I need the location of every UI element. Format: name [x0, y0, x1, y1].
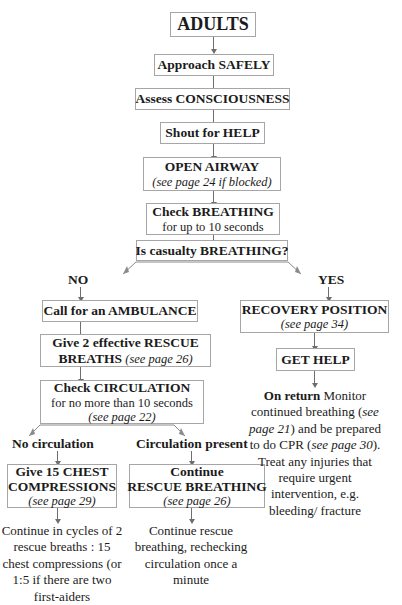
node-chest-compressions-line1: Give 15 CHEST — [15, 464, 108, 479]
terminal-text-on-return-l3: page 21) and be — [249, 421, 332, 436]
node-open-airway-note: (see page 24 if blocked) — [152, 175, 271, 189]
terminal-text-rescue-l3: circulation once a — [145, 556, 237, 571]
node-recovery-position: RECOVERY POSITION (see page 34) — [240, 300, 389, 333]
node-continue-rescue-breathing-line1: Continue — [170, 464, 223, 479]
node-adults-label: ADULTS — [177, 14, 248, 34]
node-continue-rescue-breathing-note: (see page 26) — [163, 494, 230, 508]
node-chest-compressions-line2: COMPRESSIONS — [8, 479, 116, 494]
terminal-text-on-return-l7: require urgent — [278, 470, 351, 485]
node-decision-label: Is casualty BREATHING? — [136, 243, 289, 258]
terminal-text-on-return-l2: breathing (see — [306, 404, 379, 419]
node-give-rescue-breaths-line2-bold: BREATHS — [58, 351, 125, 366]
terminal-text-cycles-l4: 1:5 if there are two — [13, 572, 112, 587]
terminal-text-on-return-l8: intervention, — [271, 486, 337, 501]
node-adults: ADULTS — [170, 12, 256, 37]
node-call-ambulance: Call for an AMBULANCE — [42, 300, 198, 322]
node-decision-is-casualty-breathing: Is casualty BREATHING? — [136, 240, 288, 261]
node-get-help-label: GET HELP — [281, 352, 349, 367]
node-continue-rescue-breathing: Continue RESCUE BREATHING (see page 26) — [129, 464, 265, 508]
terminal-text-on-return: On return Monitor continued breathing (s… — [246, 388, 384, 519]
node-recovery-position-note: (see page 34) — [281, 317, 348, 331]
edge-label-no: NO — [68, 272, 88, 288]
node-check-breathing: Check BREATHING for up to 10 seconds — [146, 203, 280, 235]
node-assess-consciousness: Assess CONSCIOUSNESS — [135, 88, 290, 110]
node-call-ambulance-label: Call for an AMBULANCE — [43, 303, 196, 318]
node-check-circulation-line2: for no more than 10 seconds — [51, 396, 193, 410]
node-give-rescue-breaths-note: (see page 26) — [125, 352, 192, 366]
terminal-text-on-return-l3b: ) and be — [290, 421, 332, 436]
terminal-text-on-return-heading: On return — [264, 388, 320, 403]
node-give-rescue-breaths-line2: BREATHS (see page 26) — [58, 351, 192, 366]
node-open-airway: OPEN AIRWAY (see page 24 if blocked) — [143, 157, 281, 191]
node-assess-consciousness-label: Assess CONSCIOUSNESS — [135, 91, 289, 106]
node-check-circulation: Check CIRCULATION for no more than 10 se… — [40, 380, 204, 424]
terminal-text-cycles-l5: first-aiders — [34, 589, 90, 604]
node-check-breathing-label: Check BREATHING — [152, 204, 274, 219]
terminal-text-rescue-l4: minute — [173, 572, 209, 587]
node-get-help: GET HELP — [276, 348, 355, 371]
edge-label-no-circulation: No circulation — [12, 436, 94, 452]
terminal-text-on-return-l6: any injuries that — [288, 454, 372, 469]
terminal-text-rescue-l1: Continue rescue — [149, 523, 233, 538]
node-approach-safely-label: Approach SAFELY — [158, 57, 271, 72]
node-give-rescue-breaths: Give 2 effective RESCUE BREATHS (see pag… — [40, 334, 211, 367]
node-check-circulation-note: (see page 22) — [88, 410, 155, 424]
node-check-breathing-note: for up to 10 seconds — [162, 220, 263, 234]
edge-label-yes: YES — [318, 272, 344, 288]
terminal-text-cycles: Continue in cycles of 2 rescue breaths :… — [0, 523, 124, 605]
node-open-airway-label: OPEN AIRWAY — [165, 159, 260, 174]
node-chest-compressions-note: (see page 29) — [28, 494, 95, 508]
terminal-text-on-return-l10: fracture — [321, 503, 361, 518]
node-check-circulation-line1: Check CIRCULATION — [54, 380, 191, 395]
terminal-text-on-return-l2b: see — [362, 404, 379, 419]
terminal-text-cycles-l3: chest compressions (or — [2, 556, 121, 571]
terminal-text-on-return-l5b: see page 30 — [311, 437, 372, 452]
terminal-text-on-return-l3a: page 21 — [249, 421, 291, 436]
node-approach-safely: Approach SAFELY — [154, 54, 274, 76]
node-shout-for-help: Shout for HELP — [160, 122, 265, 144]
terminal-text-rescue-l2: breathing, rechecking — [135, 539, 248, 554]
terminal-text-rescue: Continue rescue breathing, rechecking ci… — [128, 523, 254, 589]
node-chest-compressions: Give 15 CHEST COMPRESSIONS (see page 29) — [7, 464, 117, 508]
edge-label-circulation-present: Circulation present — [136, 436, 248, 452]
node-give-rescue-breaths-line1: Give 2 effective RESCUE — [52, 335, 199, 350]
terminal-text-on-return-l2a: breathing ( — [306, 404, 363, 419]
terminal-text-cycles-l1: Continue in cycles of — [2, 523, 113, 538]
node-recovery-position-label: RECOVERY POSITION — [242, 302, 388, 317]
node-shout-for-help-label: Shout for HELP — [165, 125, 259, 140]
